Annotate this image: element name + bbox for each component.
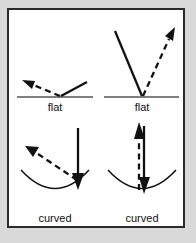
arrowhead-down-icon — [72, 173, 84, 190]
outgoing-ray-bottom-left — [35, 152, 77, 180]
panel-bottom-right: curved — [108, 122, 176, 224]
panel-bottom-left: curved — [21, 128, 89, 224]
incoming-ray-top-right — [115, 31, 142, 96]
arrowhead-up-left-icon — [22, 80, 35, 89]
arrowhead-down-icon — [139, 177, 150, 194]
reflection-diagram: flat flat curved — [9, 10, 187, 230]
label-top-left: flat — [48, 101, 63, 113]
outgoing-ray-top-left — [31, 84, 60, 96]
outgoing-ray-top-right — [143, 39, 169, 96]
label-bottom-left: curved — [38, 212, 71, 224]
label-top-right: flat — [135, 101, 150, 113]
arrowhead-up-right-icon — [165, 27, 175, 41]
panel-top-right: flat — [104, 27, 179, 113]
panel-top-left: flat — [17, 80, 93, 113]
incoming-ray-top-left — [61, 82, 87, 96]
figure-root: flat flat curved — [0, 0, 196, 243]
figure-panel: flat flat curved — [7, 8, 185, 228]
arrowhead-up-left-icon — [25, 146, 39, 157]
label-bottom-right: curved — [125, 212, 158, 224]
